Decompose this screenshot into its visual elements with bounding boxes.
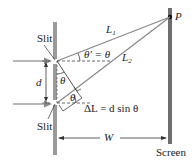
d-dimension-arrow [42, 61, 50, 103]
screen [168, 8, 172, 144]
ray-L1 [57, 17, 170, 61]
double-slit-diagram: Slit Slit P L1 L2 θ′ = θ θ θ d ΔL = d si… [0, 0, 195, 161]
theta-prime-arc [78, 53, 80, 61]
theta-prime-label: θ′ = θ [84, 48, 111, 60]
w-label: W [104, 131, 114, 143]
theta-lower-label: θ [70, 91, 76, 103]
slit-top-label: Slit [37, 32, 52, 44]
delta-l-label: ΔL = d sin θ [84, 102, 138, 114]
slit-barrier-lower [53, 105, 57, 155]
l1-label: L1 [105, 23, 116, 37]
slit-bottom-label: Slit [37, 120, 52, 132]
slit-barrier-middle [53, 64, 57, 100]
point-p-label: P [174, 10, 182, 22]
d-label: d [36, 76, 42, 88]
screen-label: Screen [156, 146, 186, 158]
theta-upper-label: θ [60, 74, 66, 86]
slit-barrier-upper [53, 22, 57, 59]
l2-label: L2 [121, 51, 132, 65]
